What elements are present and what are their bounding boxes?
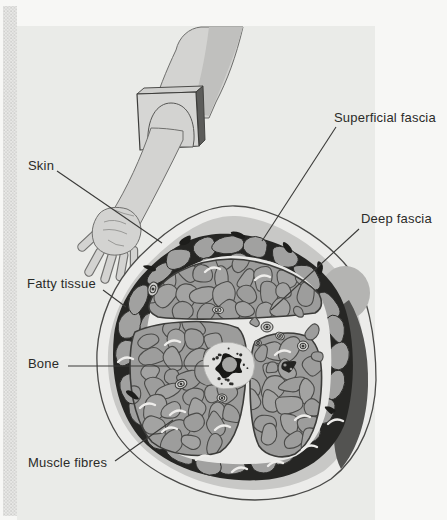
page-edge-pattern [3, 6, 17, 516]
label-bone: Bone [28, 356, 59, 371]
figure: Skin Superficial fascia Deep fascia Fatt… [0, 0, 447, 520]
label-deep-fascia: Deep fascia [361, 211, 432, 226]
anatomy-diagram [0, 0, 447, 520]
bone [203, 342, 254, 388]
label-skin: Skin [28, 158, 54, 173]
label-fatty-tissue: Fatty tissue [27, 276, 96, 291]
label-superficial-fascia: Superficial fascia [334, 110, 436, 125]
label-muscle-fibres: Muscle fibres [28, 455, 107, 470]
